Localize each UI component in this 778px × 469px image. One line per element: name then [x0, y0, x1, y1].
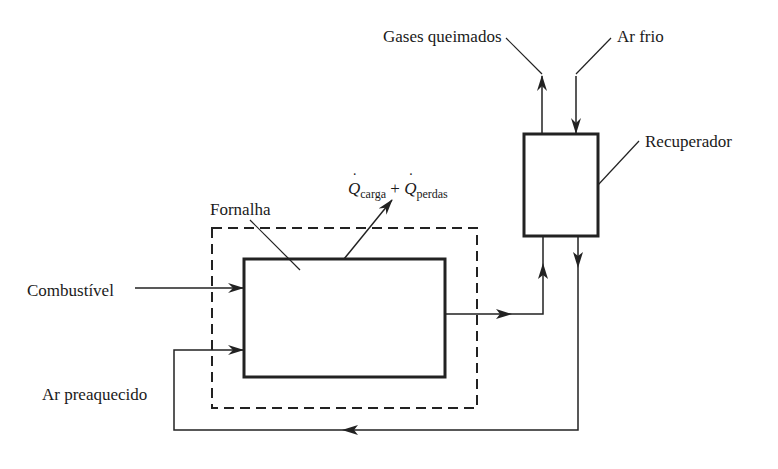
label-heat-flow: ˙Qcarga + ˙Qperdas [348, 180, 448, 200]
q-perdas-symbol: ˙Q [404, 179, 416, 198]
recuperador-box [524, 134, 598, 236]
label-gases-queimados: Gases queimados [383, 28, 502, 45]
gases-leader-line [506, 38, 542, 74]
q-carga-subscript: carga [360, 187, 386, 201]
plus-sign: + [390, 179, 400, 198]
fornalha-box [244, 259, 445, 377]
ar-frio-leader-line [576, 38, 611, 74]
ar-preaquecido-loop [174, 236, 578, 430]
label-combustivel: Combustível [27, 282, 114, 299]
q-out-arrow [344, 200, 392, 259]
gases-flow-line [445, 237, 543, 314]
recuperador-leader-line [598, 141, 639, 185]
label-ar-preaquecido: Ar preaquecido [42, 386, 147, 403]
q-carga-symbol: ˙Q [348, 179, 360, 198]
control-volume-dashed-box [212, 228, 477, 408]
label-fornalha: Fornalha [210, 201, 270, 218]
q-perdas-subscript: perdas [416, 187, 447, 201]
label-ar-frio: Ar frio [617, 28, 664, 45]
label-recuperador: Recuperador [645, 133, 732, 150]
